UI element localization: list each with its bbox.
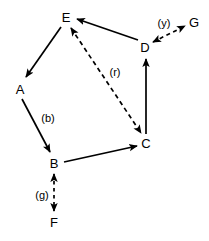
node-F: F — [50, 216, 58, 229]
edge-E-C — [71, 28, 141, 133]
node-C: C — [141, 137, 150, 150]
node-B: B — [50, 157, 59, 170]
graph-edges-canvas — [0, 0, 209, 241]
node-E: E — [62, 11, 71, 24]
edge-label-y: (y) — [158, 18, 171, 29]
node-D: D — [140, 41, 149, 54]
graph-diagram: E G D A C B F (b) (r) (g) (y) — [0, 0, 209, 241]
edge-B-C — [64, 146, 137, 162]
edge-label-r: (r) — [110, 67, 121, 78]
edge-D-E — [77, 19, 138, 40]
edge-label-g: (g) — [35, 190, 48, 201]
node-A: A — [16, 83, 25, 96]
edge-E-A — [26, 27, 61, 77]
edge-A-B — [22, 99, 50, 152]
node-G: G — [189, 16, 199, 29]
edge-label-b: (b) — [41, 113, 54, 124]
